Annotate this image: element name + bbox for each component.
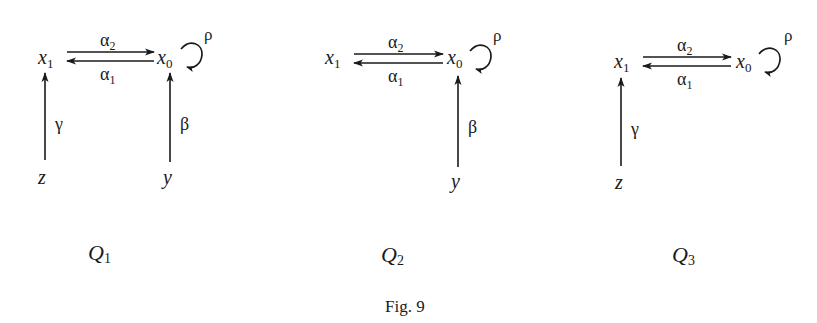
vertex-z: z <box>37 166 46 188</box>
label-rho: ρ <box>493 26 501 45</box>
loop-rho <box>181 43 202 67</box>
figure-caption: Fig. 9 <box>385 297 425 316</box>
label-alpha2: α2 <box>100 30 115 53</box>
label-beta: β <box>468 117 477 137</box>
label-gamma: γ <box>54 114 63 134</box>
label-alpha2: α2 <box>677 35 692 58</box>
vertex-x1: x1 <box>613 50 629 75</box>
quiver-q3: x1 x0 α2 α1 ρ γ z Q3 <box>613 26 792 268</box>
label-alpha2: α2 <box>388 32 403 55</box>
quiver-name-q2: Q2 <box>381 242 404 268</box>
label-alpha1: α1 <box>100 64 115 87</box>
vertex-x1: x1 <box>37 46 53 71</box>
vertex-y: y <box>449 170 460 193</box>
label-rho: ρ <box>784 26 792 45</box>
vertex-x0: x0 <box>156 46 172 71</box>
vertex-x0: x0 <box>735 50 751 75</box>
quiver-figure: x1 x0 α2 α1 ρ γ β z y Q1 x1 <box>0 0 817 323</box>
quiver-name-q3: Q3 <box>672 242 695 268</box>
label-rho: ρ <box>204 25 212 44</box>
vertex-x1: x1 <box>324 46 340 71</box>
label-alpha1: α1 <box>677 69 692 92</box>
label-alpha1: α1 <box>388 66 403 89</box>
label-gamma: γ <box>630 119 639 139</box>
vertex-z: z <box>614 171 623 193</box>
quiver-name-q1: Q1 <box>88 240 111 266</box>
quiver-q2: x1 x0 α2 α1 ρ β y Q2 <box>324 26 501 268</box>
loop-rho <box>759 48 780 72</box>
vertex-x0: x0 <box>446 46 462 71</box>
label-beta: β <box>180 114 189 134</box>
quiver-q1: x1 x0 α2 α1 ρ γ β z y Q1 <box>37 25 212 266</box>
vertex-y: y <box>161 166 172 189</box>
loop-rho <box>470 45 491 69</box>
